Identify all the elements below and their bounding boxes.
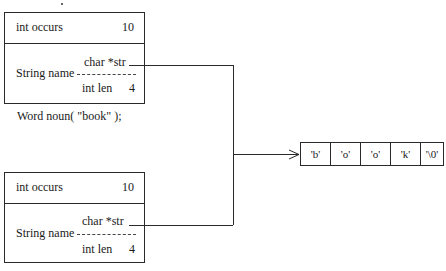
bottom-len-label: int len: [82, 242, 112, 256]
top-string-name-label: String name: [16, 66, 74, 80]
arrowhead-icon: [288, 149, 300, 160]
caption-word-noun: Word noun( "book" );: [17, 109, 121, 123]
stray-dot: [61, 3, 63, 5]
bottom-string-name-label: String name: [16, 226, 74, 240]
top-occurs-value: 10: [122, 20, 134, 34]
top-str-label: char *str: [84, 55, 126, 69]
top-len-value: 4: [129, 81, 135, 95]
top-pointer-line: [129, 65, 233, 66]
bottom-len-value: 4: [129, 242, 135, 256]
pointer-connector-line: [233, 65, 234, 225]
bottom-divider: [5, 203, 144, 204]
bottom-occurs-label: int occurs: [16, 180, 63, 194]
char-cell: 'o': [331, 143, 361, 165]
char-cell: 'b': [301, 143, 331, 165]
char-cell: 'o': [361, 143, 391, 165]
bottom-occurs-value: 10: [122, 180, 134, 194]
top-len-label: int len: [82, 81, 112, 95]
bottom-pointer-line: [129, 225, 233, 226]
bottom-str-label: char *str: [82, 214, 124, 228]
top-dashed-separator: [77, 74, 136, 75]
char-cell-null-terminator: '\0': [421, 143, 443, 165]
bottom-dashed-separator: [77, 234, 136, 235]
char-array: 'b' 'o' 'o' 'k' '\0': [300, 142, 444, 166]
top-occurs-label: int occurs: [16, 20, 63, 34]
char-cell: 'k': [391, 143, 421, 165]
top-divider: [5, 43, 144, 44]
